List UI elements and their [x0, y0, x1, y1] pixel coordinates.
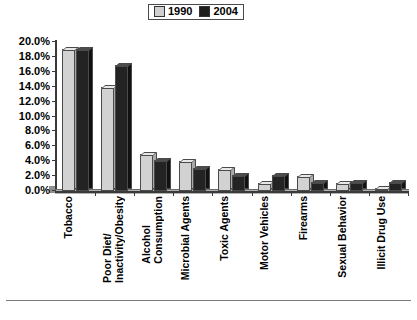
- legend-swatch-1990-icon: [154, 6, 165, 17]
- y-tick-4: 12.0%: [0, 96, 56, 107]
- bar-2004: [193, 168, 206, 191]
- y-tick-label: 2.0%: [25, 170, 50, 181]
- bar-face: [101, 87, 114, 191]
- bar-face: [140, 154, 153, 191]
- bar-group: [291, 42, 330, 191]
- y-tick-2: 16.0%: [0, 66, 56, 77]
- y-tick-8: 4.0%: [0, 155, 56, 166]
- y-tick-label: 10.0%: [19, 111, 50, 122]
- y-tick-5: 10.0%: [0, 111, 56, 122]
- bar-group: [173, 42, 212, 191]
- y-tick-label: 0.0%: [25, 185, 50, 196]
- bar-1990: [258, 183, 271, 191]
- y-tick-label: 12.0%: [19, 96, 50, 107]
- bar-2004: [76, 49, 89, 191]
- x-axis-label: Microbial Agents: [180, 196, 192, 280]
- bar-face: [218, 169, 231, 191]
- y-tick-label: 6.0%: [25, 140, 50, 151]
- x-tick: [173, 191, 174, 196]
- x-tick: [252, 191, 253, 196]
- bar-face: [272, 175, 285, 191]
- legend-label-1990: 1990: [168, 6, 192, 17]
- bar-1990: [62, 49, 75, 191]
- bar-face: [232, 175, 245, 191]
- bar-1990: [297, 176, 310, 191]
- legend-item-2004: 2004: [199, 6, 237, 17]
- bar-face: [179, 161, 192, 191]
- y-tick-0: 20.0%: [0, 36, 56, 47]
- bar-group: [252, 42, 291, 191]
- bar-2004: [350, 182, 363, 191]
- bar-face: [115, 65, 128, 191]
- y-tick-10: 0.0%: [0, 185, 56, 196]
- y-tick-label: 14.0%: [19, 81, 50, 92]
- y-tick-7: 6.0%: [0, 140, 56, 151]
- plot-area: [56, 42, 408, 191]
- bar-1990: [179, 161, 192, 191]
- bar-1990: [140, 154, 153, 191]
- x-tick: [408, 191, 409, 196]
- y-tick-label: 16.0%: [19, 66, 50, 77]
- x-tick: [291, 191, 292, 196]
- x-axis-label: Motor Vehicles: [259, 196, 271, 270]
- x-axis-label: Alcohol Consumption: [141, 196, 164, 264]
- bar-2004: [232, 175, 245, 191]
- x-tick: [95, 191, 96, 196]
- x-axis-line: [55, 191, 409, 193]
- bar-group: [369, 42, 408, 191]
- bar-group: [330, 42, 369, 191]
- bar-side: [167, 158, 171, 189]
- y-tick-label: 18.0%: [19, 51, 50, 62]
- legend-label-2004: 2004: [213, 6, 237, 17]
- legend-item-1990: 1990: [154, 6, 192, 17]
- x-axis-label: Toxic Agents: [219, 196, 231, 261]
- x-tick: [134, 191, 135, 196]
- y-tick-label: 4.0%: [25, 155, 50, 166]
- y-tick-1: 18.0%: [0, 51, 56, 62]
- bar-2004: [115, 65, 128, 191]
- y-tick-label: 8.0%: [25, 125, 50, 136]
- chart-legend: 1990 2004: [148, 4, 244, 20]
- bar-1990: [375, 188, 388, 191]
- x-axis-label: Illicit Drug Use: [376, 196, 388, 270]
- y-tick-6: 8.0%: [0, 125, 56, 136]
- bar-1990: [336, 183, 349, 191]
- bar-group: [56, 42, 95, 191]
- bar-1990: [101, 87, 114, 191]
- bar-1990: [218, 169, 231, 191]
- bar-group: [212, 42, 251, 191]
- bar-group: [95, 42, 134, 191]
- bar-2004: [154, 160, 167, 191]
- bar-2004: [272, 175, 285, 191]
- y-tick-9: 2.0%: [0, 170, 56, 181]
- x-axis-label: Sexual Behavior: [337, 196, 349, 278]
- bar-side: [128, 63, 132, 189]
- bar-face: [62, 49, 75, 191]
- legend-swatch-2004-icon: [199, 6, 210, 17]
- bar-face: [154, 160, 167, 191]
- bar-2004: [311, 182, 324, 191]
- bar-2004: [389, 182, 402, 191]
- x-tick: [330, 191, 331, 196]
- x-tick: [369, 191, 370, 196]
- footer-divider: [6, 300, 411, 301]
- x-axis-label: Tobacco: [63, 196, 75, 238]
- chart-page: 1990 2004 20.0%18.0%16.0%14.0%12.0%10.0%…: [0, 0, 417, 320]
- bar-face: [76, 49, 89, 191]
- x-axis-label: Firearms: [298, 196, 310, 240]
- x-tick: [212, 191, 213, 196]
- bar-side: [89, 47, 93, 189]
- bar-group: [134, 42, 173, 191]
- y-tick-label: 20.0%: [19, 36, 50, 47]
- x-axis-label: Poor Diet/ Inactivity/Obesity: [102, 196, 125, 283]
- y-tick-3: 14.0%: [0, 81, 56, 92]
- bar-face: [297, 176, 310, 191]
- bar-side: [206, 166, 210, 189]
- bar-face: [193, 168, 206, 191]
